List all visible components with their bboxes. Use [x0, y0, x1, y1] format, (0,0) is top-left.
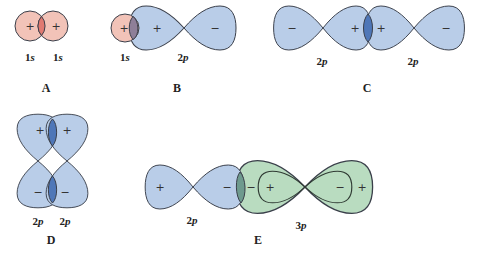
sign-plus: + — [152, 22, 161, 35]
panel-e: + − − + − + 2p 3p E — [145, 161, 372, 247]
orbital-label: 2p — [317, 55, 329, 67]
overlap-region — [38, 16, 45, 35]
sign-minus: − — [441, 22, 450, 35]
panel-a: + + 1s 1s A — [15, 11, 68, 95]
sign-plus: + — [357, 181, 366, 194]
panel-caption: D — [47, 233, 56, 247]
sign-minus: − — [33, 186, 42, 199]
orbital-label: 1s — [25, 51, 35, 63]
overlap-region — [364, 14, 373, 42]
panel-caption: B — [173, 81, 181, 95]
sign-minus: − — [335, 181, 344, 194]
sign-plus: + — [51, 20, 60, 33]
orbital-label: 2p — [187, 214, 199, 226]
sign-minus: − — [210, 22, 219, 35]
orbital-label: 2p — [178, 51, 190, 63]
sign-plus: + — [35, 124, 44, 137]
sign-plus: + — [155, 181, 164, 194]
orbital-label: 2p — [33, 215, 45, 227]
panel-caption: A — [42, 81, 51, 95]
sign-minus: − — [60, 186, 69, 199]
overlap-region-bottom — [48, 176, 56, 203]
sign-plus: + — [62, 124, 71, 137]
panel-caption: C — [363, 81, 372, 95]
orbital-label: 2p — [408, 55, 420, 67]
panel-c: − + + − 2p 2p C — [274, 6, 465, 95]
sign-plus: + — [376, 22, 385, 35]
sign-minus: − — [222, 181, 231, 194]
overlap-region — [129, 17, 138, 40]
sign-plus: + — [350, 22, 359, 35]
p3-orbital — [236, 161, 372, 214]
orbital-label: 3p — [296, 219, 308, 231]
orbital-label: 1s — [120, 51, 130, 63]
sign-plus: + — [119, 22, 128, 35]
p-orbital — [129, 6, 236, 50]
orbital-overlap-diagram: + + 1s 1s A + + − 1s 2p B − + + − — [0, 0, 481, 256]
sign-plus: + — [265, 181, 274, 194]
sign-plus: + — [25, 20, 34, 33]
overlap-region-top — [48, 119, 56, 146]
orbital-label: 2p — [60, 215, 72, 227]
orbital-label: 1s — [53, 51, 63, 63]
panel-d: + + − − 2p 2p D — [17, 114, 88, 247]
panel-b: + + − 1s 2p B — [111, 6, 236, 95]
sign-minus: − — [246, 181, 255, 194]
sign-minus: − — [287, 22, 296, 35]
panel-caption: E — [254, 233, 262, 247]
